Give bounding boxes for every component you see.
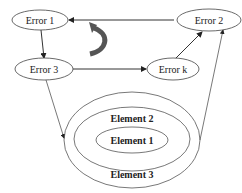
- svg-text:Error 2: Error 2: [195, 15, 224, 26]
- error-cycle-diagram: Error 1 Error 2 Error 3 Error k Element …: [0, 0, 242, 193]
- svg-text:Error 1: Error 1: [26, 15, 55, 26]
- cycle-arrow-icon: [89, 22, 105, 54]
- node-error-3: Error 3: [15, 58, 73, 80]
- svg-text:Error k: Error k: [159, 64, 188, 75]
- edge-errork-error2: [174, 32, 202, 60]
- node-error-2: Error 2: [177, 9, 241, 31]
- edge-error3-element3: [46, 80, 64, 138]
- node-error-1: Error 1: [12, 10, 68, 30]
- svg-text:Element 1: Element 1: [110, 135, 153, 146]
- edge-element3-error2: [200, 30, 223, 140]
- svg-text:Error 3: Error 3: [30, 64, 59, 75]
- node-element-1: Element 1: [96, 127, 168, 153]
- svg-text:Element 2: Element 2: [110, 113, 153, 124]
- node-error-k: Error k: [147, 58, 199, 80]
- edge-error1-error3: [41, 30, 44, 58]
